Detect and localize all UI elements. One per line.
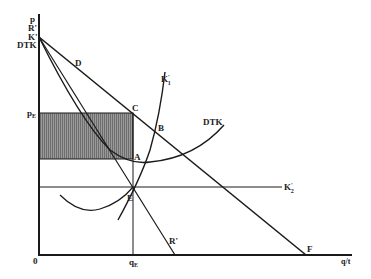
lower-u-curve xyxy=(60,187,133,210)
point-f-label: F xyxy=(307,244,313,254)
economics-diagram: p R' K' DTK pE D C B A E F K'1 DTK K'2 R… xyxy=(0,0,371,279)
point-e-label: E xyxy=(127,193,133,203)
point-d-label: D xyxy=(75,58,82,68)
point-c-label: C xyxy=(132,103,139,113)
r-label: R' xyxy=(169,236,178,246)
dtk-label: DTK xyxy=(203,117,223,127)
y-label-dtk: DTK xyxy=(17,40,37,50)
k2-label: K'2 xyxy=(284,182,294,194)
pe-label: pE xyxy=(27,108,36,119)
qe-label: qE xyxy=(129,257,138,268)
point-b-label: B xyxy=(158,123,164,133)
x-axis-label: q/t xyxy=(341,257,351,266)
k1-label: K'1 xyxy=(161,74,171,86)
origin-label: 0 xyxy=(33,256,38,266)
point-a-label: A xyxy=(134,152,141,162)
